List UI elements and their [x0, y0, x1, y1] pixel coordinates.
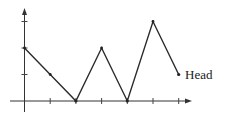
- y-axis-arrow-icon: [22, 8, 27, 15]
- axes: [10, 12, 188, 112]
- head-label: Head: [185, 67, 213, 82]
- x-axis-arrow-icon: [185, 99, 192, 104]
- data-line: [25, 22, 179, 102]
- data-points: [23, 20, 180, 103]
- zigzag-line-diagram: Head: [0, 0, 226, 118]
